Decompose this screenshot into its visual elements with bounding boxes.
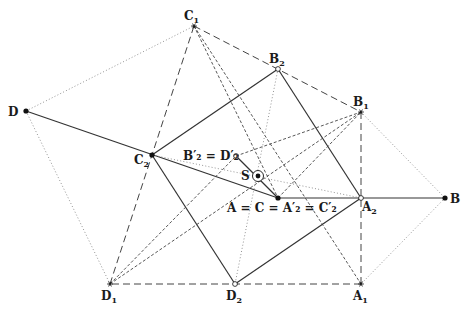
segment-C2-B2 (152, 69, 278, 155)
label-s: S (241, 169, 250, 183)
label-a2: A2 (361, 200, 377, 216)
label-d: D (8, 105, 18, 119)
label-b2: B2 (269, 52, 285, 68)
label-b2p: B′₂ = D′₂ (183, 149, 239, 163)
geometry-diagram: C1B2B1DC2B′₂ = D′₂SA = C = A′₂ = C′₂A2BD… (0, 0, 469, 312)
point-d-dot-icon (23, 108, 28, 113)
segment-D-C1 (26, 26, 194, 111)
label-c1: C1 (184, 9, 199, 25)
label-d1: D1 (101, 289, 117, 305)
segment-D-D1 (26, 111, 110, 284)
segment-D2-C2 (152, 155, 235, 284)
label-a: A = C = A′₂ = C′₂ (226, 201, 337, 215)
segment-B1-B (361, 112, 445, 198)
segment-A-B1 (278, 112, 361, 198)
point-s-target-icon (253, 171, 264, 182)
label-a1: A1 (352, 289, 368, 305)
segment-B2-A2 (278, 69, 361, 198)
label-b: B (450, 192, 460, 206)
label-d2: D2 (226, 289, 242, 305)
point-a-dot-icon (275, 195, 280, 200)
label-b1: B1 (353, 95, 369, 111)
label-c2: C2 (134, 153, 149, 169)
segment-D1-B2p (110, 156, 236, 284)
point-b-dot-icon (442, 195, 447, 200)
point-d2-circle-open-icon (233, 282, 238, 287)
labels-layer: C1B2B1DC2B′₂ = D′₂SA = C = A′₂ = C′₂A2BD… (8, 9, 460, 305)
point-c2-dot-icon (149, 152, 154, 157)
segment-C1-A (194, 26, 278, 198)
